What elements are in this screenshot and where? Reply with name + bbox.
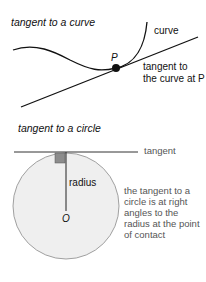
description-line: circle is at right <box>124 197 187 208</box>
description-line: the tangent to a <box>124 186 190 197</box>
tangent-line-curve <box>21 37 198 107</box>
label-point-p: P <box>111 52 118 63</box>
label-tangent-line1: tangent to <box>143 61 187 72</box>
label-center-o: O <box>62 213 70 224</box>
right-angle-marker <box>55 153 65 163</box>
description-line: radius at the point <box>124 219 200 230</box>
description-line: of contact <box>124 230 165 241</box>
label-radius: radius <box>69 177 96 188</box>
heading-tangent-curve: tangent to a curve <box>11 17 95 28</box>
heading-tangent-circle: tangent to a circle <box>18 123 101 134</box>
label-tangent: tangent <box>144 146 176 157</box>
description-line: angles to the <box>124 208 178 219</box>
label-tangent-line2: the curve at P <box>143 73 205 84</box>
point-p <box>112 64 120 72</box>
diagram-canvas <box>0 0 206 282</box>
label-curve: curve <box>154 25 178 36</box>
curve <box>13 22 147 70</box>
